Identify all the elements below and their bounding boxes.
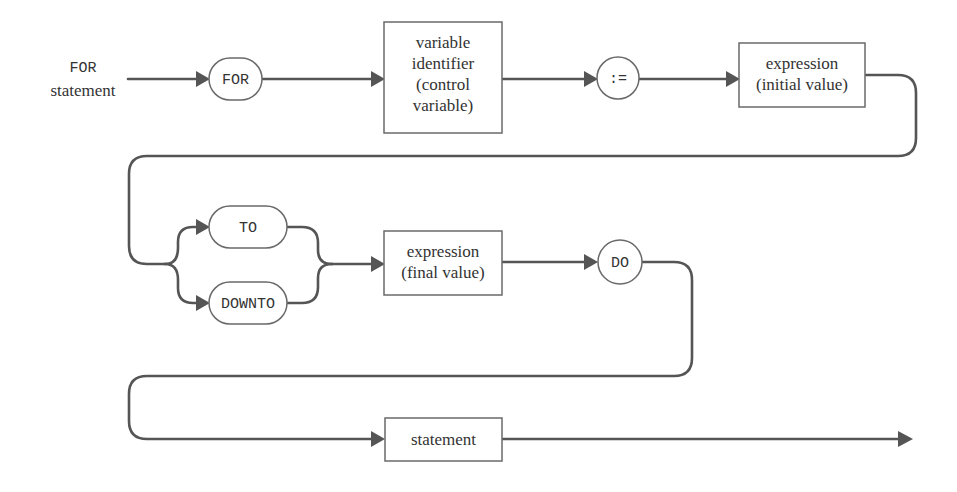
node-to-keyword: TO	[209, 206, 287, 248]
final-expression-line2: (final value)	[401, 263, 485, 282]
arrow-icon	[726, 71, 740, 87]
diagram-title-label: statement	[50, 81, 115, 100]
arrow-icon	[196, 219, 210, 235]
node-final-expression: expression (final value)	[384, 231, 502, 295]
arrow-icon	[371, 256, 385, 272]
node-assign-operator: :=	[597, 57, 639, 99]
node-statement: statement	[385, 418, 502, 461]
merge-downto-line	[287, 264, 332, 303]
downto-keyword-label: DOWNTO	[221, 296, 275, 313]
branch-to-line	[165, 227, 200, 264]
exit-arrow-icon	[898, 431, 913, 447]
control-variable-line3: (control	[416, 75, 470, 94]
arrow-icon	[371, 71, 385, 87]
assign-operator-label: :=	[609, 71, 627, 88]
node-do-keyword: DO	[598, 240, 642, 284]
do-keyword-label: DO	[611, 255, 629, 272]
control-variable-line1: variable	[416, 33, 471, 52]
arrow-icon	[584, 71, 598, 87]
statement-label: statement	[411, 430, 476, 449]
branch-downto-line	[165, 264, 200, 303]
control-variable-line2: identifier	[412, 54, 475, 73]
merge-to-line	[287, 227, 332, 264]
node-for-keyword: FOR	[209, 58, 262, 100]
node-downto-keyword: DOWNTO	[209, 282, 287, 324]
diagram-title-keyword: FOR	[69, 60, 96, 77]
arrow-icon	[371, 431, 385, 447]
final-expression-line1: expression	[407, 242, 480, 261]
node-control-variable: variable identifier (control variable)	[384, 22, 502, 133]
to-keyword-label: TO	[239, 220, 257, 237]
arrow-icon	[584, 254, 598, 270]
arrow-icon	[196, 71, 210, 87]
for-keyword-label: FOR	[222, 72, 249, 89]
node-initial-expression: expression (initial value)	[739, 43, 865, 107]
for-statement-syntax-diagram: FOR statement FOR variable identifier (c…	[0, 0, 957, 492]
initial-expression-line2: (initial value)	[756, 75, 848, 94]
arrow-icon	[196, 295, 210, 311]
initial-expression-line1: expression	[766, 54, 839, 73]
control-variable-line4: variable)	[413, 96, 473, 115]
